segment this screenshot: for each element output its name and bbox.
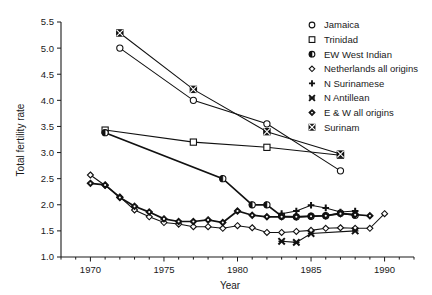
data-point-marker-circle-half bbox=[102, 130, 108, 136]
legend-label: Jamaica bbox=[324, 19, 360, 30]
data-point-marker-square-crossed bbox=[309, 124, 315, 130]
x-axis-title: Year bbox=[220, 280, 241, 291]
data-point-marker-circle-open bbox=[117, 45, 123, 51]
data-point-marker-circle-open bbox=[309, 22, 315, 28]
chart-figure: 1.01.52.02.53.03.54.04.55.05.5 197019751… bbox=[0, 0, 432, 295]
legend-label: E & W all origins bbox=[324, 107, 394, 118]
fertility-rate-line-chart: 1.01.52.02.53.03.54.04.55.05.5 197019751… bbox=[0, 0, 432, 295]
x-axis-tick-label: 1970 bbox=[80, 264, 101, 275]
y-axis-tick-label: 3.5 bbox=[41, 121, 54, 132]
chart-background bbox=[0, 0, 432, 295]
x-axis-tick-label: 1990 bbox=[374, 264, 395, 275]
legend-label: Surinam bbox=[324, 122, 359, 133]
y-axis-tick-label: 1.5 bbox=[41, 225, 54, 236]
legend-label: Trinidad bbox=[324, 34, 358, 45]
y-axis-tick-label: 2.0 bbox=[41, 199, 54, 210]
data-point-marker-square-open bbox=[190, 139, 196, 145]
data-point-marker-square-crossed bbox=[337, 151, 343, 157]
x-axis-tick-label: 1980 bbox=[227, 264, 248, 275]
data-point-marker-circle-open bbox=[190, 97, 196, 103]
data-point-marker-circle-half bbox=[249, 202, 255, 208]
legend-item-netherlands-all-origins: Netherlands all origins bbox=[309, 63, 418, 74]
data-point-marker-square-crossed bbox=[117, 30, 123, 36]
data-point-marker-square-open bbox=[264, 144, 270, 150]
y-axis-tick-label: 4.5 bbox=[41, 69, 54, 80]
data-point-marker-square-open bbox=[309, 37, 315, 43]
data-point-marker-circle-open bbox=[264, 121, 270, 127]
y-axis-tick-label: 5.0 bbox=[41, 43, 54, 54]
data-point-marker-circle-half bbox=[309, 51, 315, 57]
data-point-marker-square-crossed bbox=[190, 86, 196, 92]
x-axis-tick-label: 1985 bbox=[300, 264, 321, 275]
data-point-marker-circle-half bbox=[220, 176, 226, 182]
data-point-marker-circle-half bbox=[264, 202, 270, 208]
data-point-marker-square-crossed bbox=[264, 128, 270, 134]
data-point-marker-circle-open bbox=[337, 168, 343, 174]
legend-label: Netherlands all origins bbox=[324, 63, 418, 74]
y-axis-tick-label: 1.0 bbox=[41, 251, 54, 262]
legend-label: N Surinamese bbox=[324, 78, 384, 89]
y-axis-tick-label: 2.5 bbox=[41, 173, 54, 184]
y-axis-title: Total fertility rate bbox=[15, 103, 26, 176]
y-axis-tick-label: 5.5 bbox=[41, 16, 54, 27]
x-axis-tick-label: 1975 bbox=[153, 264, 174, 275]
legend-label: EW West Indian bbox=[324, 49, 392, 60]
y-axis-tick-label: 3.0 bbox=[41, 147, 54, 158]
y-axis-tick-label: 4.0 bbox=[41, 95, 54, 106]
legend-label: N Antillean bbox=[324, 92, 369, 103]
